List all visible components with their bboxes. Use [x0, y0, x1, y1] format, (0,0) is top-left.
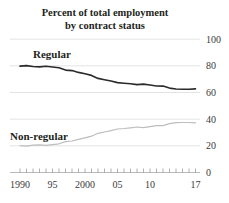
- y-tick-label-0: 0: [206, 167, 211, 178]
- chart-title-line2: by contract status: [65, 20, 145, 31]
- x-tick-label-1995: 95: [48, 179, 58, 190]
- chart-canvas: Percent of total employment by contract …: [0, 0, 229, 203]
- regular-line: [20, 66, 196, 90]
- x-tick-label-2017: 17: [191, 179, 201, 190]
- y-tick-label-80: 80: [206, 60, 216, 71]
- employment-share-chart: Percent of total employment by contract …: [0, 0, 229, 203]
- y-axis-labels: 020406080100: [206, 34, 221, 178]
- x-tick-label-2000: 2000: [75, 179, 95, 190]
- x-tick-label-1990: 1990: [10, 179, 30, 190]
- y-tick-label-60: 60: [206, 87, 216, 98]
- x-axis: [10, 169, 200, 173]
- regular-series-label: Regular: [33, 48, 71, 60]
- y-tick-label-20: 20: [206, 140, 216, 151]
- y-tick-label-100: 100: [206, 34, 221, 45]
- y-tick-label-40: 40: [206, 114, 216, 125]
- chart-title-line1: Percent of total employment: [42, 7, 169, 18]
- x-tick-label-2010: 10: [145, 179, 155, 190]
- x-axis-labels: 1990952000051017: [10, 179, 201, 190]
- x-tick-label-2005: 05: [113, 179, 123, 190]
- non-regular-series-label: Non-regular: [10, 130, 68, 142]
